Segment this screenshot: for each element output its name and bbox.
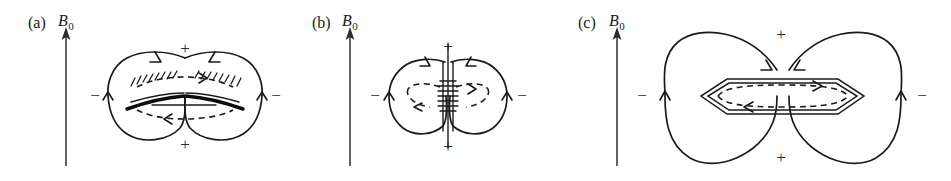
panel-b-sign-left: − [370, 86, 380, 105]
panel-b-right-current-arrow [468, 84, 476, 94]
panel-b: (b) B0 + + − − [312, 12, 527, 166]
panel-a-sign-right: − [271, 86, 281, 105]
panel-b-right-current-bottom [466, 89, 489, 107]
panel-a-current-top [137, 77, 233, 87]
panel-c-sign-top: + [776, 25, 786, 44]
panel-c-sign-right: − [917, 86, 927, 105]
panel-c-hex-inner [708, 83, 857, 110]
panel-a-disc-right [186, 96, 243, 109]
panel-a-top-left-arrow [150, 52, 161, 62]
panel-c-current-top [718, 85, 848, 96]
panel-c-sign-left: − [637, 86, 647, 105]
panel-a-label: (a) [28, 14, 46, 32]
panel-b-top-left-arrow [420, 57, 430, 66]
panel-c-current-bottom [718, 96, 848, 107]
panel-c: (c) B0 + + − − [578, 12, 927, 167]
panel-a-top-right-arrow [209, 52, 220, 62]
panel-a-disc-left [127, 96, 184, 109]
figure-canvas: (a) B0 + + − − [0, 0, 951, 181]
panel-b-label: (b) [312, 14, 331, 32]
panel-b-sheet-hatch [438, 81, 458, 111]
panel-b-sign-right: − [517, 86, 527, 105]
panel-c-sign-bottom: + [776, 148, 786, 167]
panel-b-left-current-top [408, 84, 440, 89]
panel-b-top-right-arrow [466, 57, 476, 66]
panel-a-sign-bottom: + [180, 135, 190, 154]
field-line-figure: (a) B0 + + − − [0, 0, 951, 181]
panel-b-left-current-arrow [414, 103, 422, 111]
panel-a-sign-top: + [180, 39, 190, 58]
panel-a-sign-left: − [90, 86, 100, 105]
panel-a: (a) B0 + + − − [28, 12, 281, 166]
panel-a-hatch-right [195, 71, 241, 86]
panel-c-label: (c) [578, 14, 596, 32]
